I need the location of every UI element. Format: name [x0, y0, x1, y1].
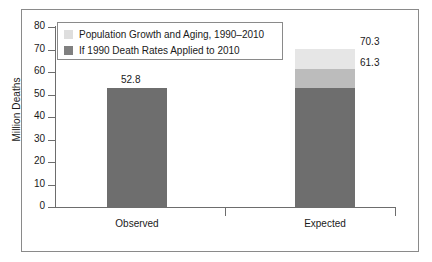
- y-tick-80: 80: [48, 27, 55, 28]
- x-category-observed: Observed: [107, 218, 167, 229]
- y-tick-30: 30: [48, 140, 55, 141]
- bar-label-observed: 52.8: [121, 74, 140, 85]
- legend-swatch-1990-death-rates: [64, 46, 73, 55]
- y-tick-label-40: 40: [34, 110, 45, 121]
- bar-expected-top: [295, 49, 355, 69]
- legend-item-population-growth: Population Growth and Aging, 1990–2010: [64, 27, 276, 42]
- chart-legend: Population Growth and Aging, 1990–2010 I…: [57, 22, 283, 60]
- legend-item-1990-death-rates: If 1990 Death Rates Applied to 2010: [64, 43, 276, 58]
- y-tick-label-10: 10: [34, 178, 45, 189]
- y-tick-label-30: 30: [34, 133, 45, 144]
- bar-observed-base: [107, 88, 167, 207]
- y-tick-label-50: 50: [34, 88, 45, 99]
- legend-swatch-population-growth: [64, 30, 73, 39]
- bar-label-expected-top: 70.3: [360, 36, 379, 47]
- legend-label-1990-death-rates: If 1990 Death Rates Applied to 2010: [79, 45, 240, 56]
- y-tick-60: 60: [48, 72, 55, 73]
- y-tick-label-70: 70: [34, 43, 45, 54]
- chart-figure: Million Deaths 80 70 60 50 40 30 20 10 0…: [0, 0, 432, 262]
- y-tick-40: 40: [48, 117, 55, 118]
- y-tick-label-0: 0: [39, 200, 45, 211]
- legend-label-population-growth: Population Growth and Aging, 1990–2010: [79, 29, 264, 40]
- y-tick-20: 20: [48, 162, 55, 163]
- y-tick-label-60: 60: [34, 65, 45, 76]
- y-tick-10: 10: [48, 185, 55, 186]
- y-tick-0: 0: [48, 207, 55, 208]
- y-tick-label-80: 80: [34, 20, 45, 31]
- x-tick-separator: [225, 208, 226, 216]
- y-tick-70: 70: [48, 50, 55, 51]
- x-category-expected: Expected: [295, 218, 355, 229]
- y-tick-50: 50: [48, 95, 55, 96]
- y-tick-label-20: 20: [34, 155, 45, 166]
- x-tick-end: [395, 208, 396, 216]
- y-axis-line: [55, 26, 56, 208]
- bar-expected-base: [295, 88, 355, 207]
- y-axis-title: Million Deaths: [11, 50, 22, 170]
- bar-label-expected-mid: 61.3: [360, 57, 379, 68]
- bar-expected-mid: [295, 69, 355, 88]
